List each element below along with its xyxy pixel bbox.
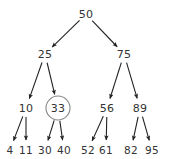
tree-edge [52,20,79,47]
binary-search-tree-diagram: 50257510335689411304052618295 [0,0,174,159]
tree-node-25: 25 [38,49,52,60]
tree-edge [92,21,117,47]
tree-node-82: 82 [124,145,138,156]
tree-edge [14,116,23,140]
tree-edge [106,117,107,140]
tree-edge [127,63,138,99]
tree-edge [142,117,149,141]
tree-node-33: 33 [51,103,65,114]
tree-node-4: 4 [7,145,14,156]
tree-node-89: 89 [133,103,147,114]
tree-node-40: 40 [57,145,71,156]
tree-edge [60,121,63,140]
tree-node-11: 11 [19,145,33,156]
tree-edge [92,116,103,141]
edges-group [14,20,150,141]
tree-node-56: 56 [100,103,114,114]
tree-edges-layer [0,0,174,159]
tree-edge [47,63,55,95]
tree-edge [110,63,121,99]
tree-node-61: 61 [99,145,113,156]
tree-node-10: 10 [19,103,33,114]
tree-node-95: 95 [145,145,159,156]
tree-node-52: 52 [81,145,95,156]
tree-edge [48,120,54,140]
tree-node-50: 50 [79,9,93,20]
tree-node-30: 30 [38,145,52,156]
tree-node-75: 75 [117,49,131,60]
tree-edge [29,62,42,98]
tree-edge [133,117,138,140]
